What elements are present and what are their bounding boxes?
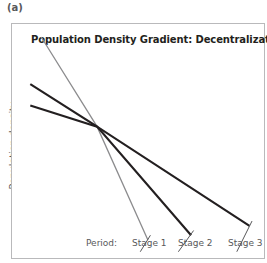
line-series-stage-2 xyxy=(30,84,191,235)
x-axis-period-label: Period: xyxy=(86,238,117,248)
line-series-stage-1 xyxy=(41,37,148,240)
plot-area: Population Density Gradient: Decentraliz… xyxy=(11,23,265,259)
density-gradient-lines xyxy=(12,24,266,260)
panel-letter: (a) xyxy=(7,2,23,14)
x-tick-label-stage-1: Stage 1 xyxy=(132,238,167,248)
x-tick-label-stage-2: Stage 2 xyxy=(178,238,213,248)
x-tick-label-stage-3: Stage 3 xyxy=(228,238,263,248)
line-series-stage-3 xyxy=(30,105,249,225)
figure-panel-a: (a) Population density Population Densit… xyxy=(0,0,267,263)
